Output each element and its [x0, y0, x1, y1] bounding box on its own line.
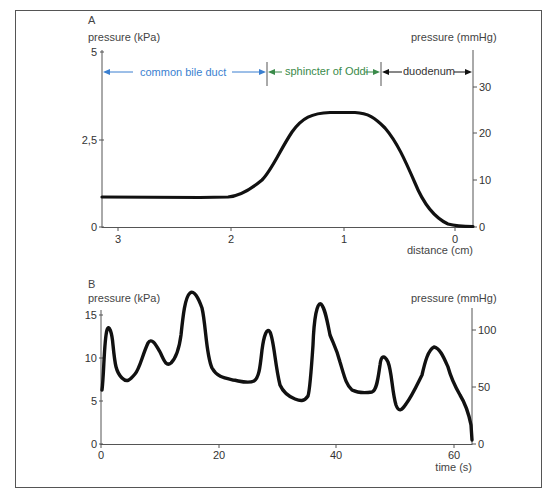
- panel-b-ylabel-left: pressure (kPa): [88, 292, 160, 304]
- panel-a-ylabel-left: pressure (kPa): [88, 31, 160, 43]
- panel-a-yticks-left: 5 2,5 0: [82, 46, 104, 233]
- xtick-label: 3: [115, 233, 121, 245]
- panel-b-ylabel-right: pressure (mmHg): [411, 292, 497, 304]
- panel-b-xlabel: time (s): [435, 461, 472, 473]
- ytick-right-label: 10: [479, 174, 491, 186]
- panel-b: B pressure (kPa) pressure (mmHg) 15 10 5…: [85, 278, 497, 473]
- ytick-label: 10: [85, 352, 97, 364]
- ytick-label: 5: [91, 395, 97, 407]
- xtick-label: 0: [98, 449, 104, 461]
- ytick-label: 15: [85, 309, 97, 321]
- panel-a-ylabel-right: pressure (mmHg): [411, 31, 497, 43]
- ytick-right-label: 100: [478, 324, 496, 336]
- panel-a-title: A: [88, 14, 96, 26]
- ytick-right-label: 0: [479, 221, 485, 233]
- ytick-label: 0: [91, 438, 97, 450]
- ytick-right-label: 30: [479, 81, 491, 93]
- arrowhead-icon: [259, 69, 266, 75]
- xtick-label: 20: [213, 449, 225, 461]
- region-label-sphincter: sphincter of Oddi: [285, 65, 368, 77]
- ytick-label: 2,5: [82, 134, 97, 146]
- xtick-label: 2: [228, 233, 234, 245]
- xtick-label: 40: [330, 449, 342, 461]
- ytick-right-label: 50: [478, 381, 490, 393]
- panel-b-yticks-right: 100 50 0: [472, 324, 496, 450]
- region-label-cbd: common bile duct: [140, 66, 226, 78]
- figure-svg: A pressure (kPa) pressure (mmHg) 5 2,5 0…: [0, 0, 556, 496]
- panel-b-xticks: 0 20 40 60: [98, 444, 460, 461]
- panel-b-title: B: [88, 278, 95, 290]
- panel-b-pressure-curve: [102, 292, 472, 440]
- ytick-right-label: 0: [478, 438, 484, 450]
- panel-b-yticks-left: 15 10 5 0: [85, 309, 103, 450]
- panel-a-yticks-right: 30 20 10 0: [473, 81, 491, 233]
- xtick-label: 60: [448, 449, 460, 461]
- ytick-label: 5: [91, 46, 97, 58]
- region-label-duodenum: duodenum: [403, 65, 455, 77]
- panel-a-xlabel: distance (cm): [407, 244, 473, 256]
- arrowhead-icon: [373, 69, 380, 75]
- ytick-label: 0: [91, 221, 97, 233]
- xtick-label: 1: [341, 233, 347, 245]
- panel-a-xticks: 3 2 1 0: [115, 227, 458, 245]
- arrowhead-icon: [465, 69, 472, 75]
- arrowhead-icon: [103, 69, 110, 75]
- panel-a: A pressure (kPa) pressure (mmHg) 5 2,5 0…: [82, 14, 497, 256]
- ytick-right-label: 20: [479, 127, 491, 139]
- region-annotations: common bile duct sphincter of Oddi duode…: [103, 62, 472, 86]
- panel-a-pressure-curve: [102, 113, 473, 227]
